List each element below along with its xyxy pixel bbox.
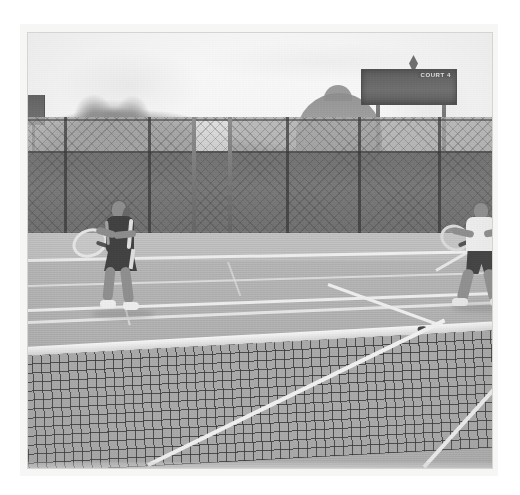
gate-post-right bbox=[228, 117, 232, 235]
fence-post bbox=[64, 117, 67, 237]
player-right-leg-right bbox=[483, 268, 492, 302]
scoreboard-court-label: COURT 4 bbox=[418, 72, 453, 78]
gate-post-left bbox=[192, 117, 196, 235]
tennis-player-left: dark navy sleeveless top with white side… bbox=[90, 201, 152, 315]
player-right-leg-left bbox=[456, 268, 474, 302]
photograph-frame: COURT 4 bbox=[0, 0, 520, 495]
player-right-shoe-right bbox=[490, 298, 492, 306]
fence-mid-rail bbox=[28, 151, 492, 153]
tennis-player-right: white t-shirt bbox=[452, 203, 492, 309]
player-left-shoe-right bbox=[123, 302, 139, 310]
tennis-court-photograph: COURT 4 bbox=[28, 33, 492, 468]
fence-post bbox=[358, 117, 361, 237]
player-left-shoe-left bbox=[100, 300, 116, 308]
fence-top-rail bbox=[28, 119, 492, 121]
fence-post bbox=[286, 117, 289, 237]
player-left-leg-left bbox=[102, 267, 115, 302]
tennis-net bbox=[28, 321, 492, 468]
player-right-shoe-left bbox=[452, 298, 468, 306]
fence-post bbox=[438, 117, 441, 237]
player-left-leg-right bbox=[120, 267, 134, 304]
net-bottom-band bbox=[28, 462, 492, 468]
court-scoreboard[interactable]: COURT 4 bbox=[361, 69, 457, 105]
